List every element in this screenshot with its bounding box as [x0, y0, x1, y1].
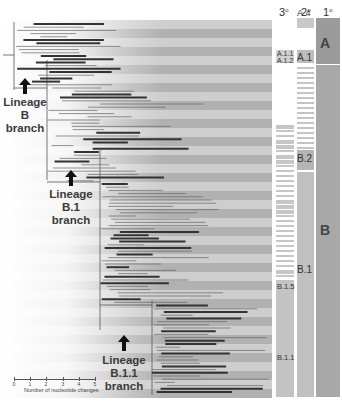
clade-columns [276, 18, 340, 397]
tertiary-column-header: 3o [279, 6, 288, 18]
tertiary-clade-a11-label: A.1.1 [277, 50, 293, 57]
lineage-b11-annotation: LineageB.1.1branch [100, 354, 148, 393]
primary-clade-a-label: A [320, 35, 330, 51]
lineage-b1-annotation: LineageB.1branch [48, 188, 94, 227]
scale-bar-title: Number of nucleotide changes [24, 387, 99, 393]
secondary-clade-b2-label: B.2 [297, 153, 312, 164]
secondary-clade-a4-label: A.4 [297, 8, 311, 18]
tertiary-clade-b15-label: B.1.5 [277, 282, 295, 291]
tertiary-clade-b11-label: B.1.1 [277, 353, 295, 362]
secondary-clade-a1-label: A.1 [297, 52, 312, 63]
lineage-b-annotation: LineageBbranch [2, 96, 48, 135]
primary-clade-b-label: B [320, 222, 330, 238]
primary-column-header: 1o [323, 6, 332, 18]
tertiary-clade-a12-label: A.1.2 [277, 57, 293, 64]
secondary-clade-b1-label: B.1 [297, 264, 312, 275]
